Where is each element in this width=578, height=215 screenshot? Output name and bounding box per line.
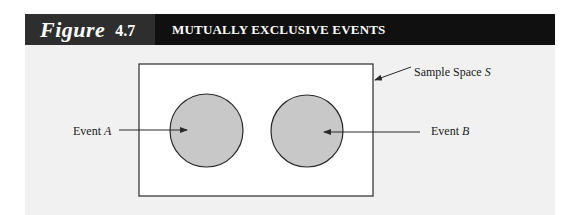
event-b-label-text: Event: [431, 124, 462, 138]
event-a-label-text: Event: [73, 124, 104, 138]
sample-space-label: Sample Space S: [414, 65, 491, 80]
sample-space-label-text: Sample Space: [414, 65, 485, 79]
event-b-variable: B: [462, 124, 469, 138]
event-a-label: Event A: [73, 124, 111, 139]
sample-space-variable: S: [485, 65, 491, 79]
sample-space-arrow: [375, 67, 411, 80]
venn-diagram: [0, 0, 578, 215]
event-a-variable: A: [104, 124, 111, 138]
event-b-label: Event B: [431, 124, 469, 139]
event-b-circle: [271, 95, 343, 167]
